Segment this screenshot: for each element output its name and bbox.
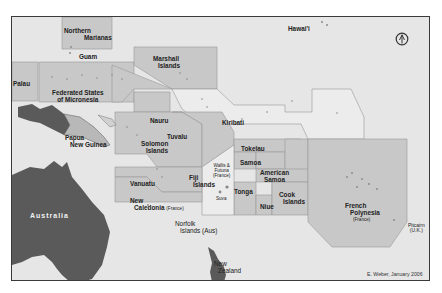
label-suva: Suva xyxy=(216,196,226,201)
label-marshall-islands: MarshallIslands xyxy=(153,55,180,69)
label-australia: Australia xyxy=(30,212,69,219)
label-solomon-islands: SolomonIslands xyxy=(141,140,168,154)
label-papua-new-guinea: PapuaNew Guinea xyxy=(65,134,107,148)
label-tonga: Tonga xyxy=(234,188,253,195)
label-vanuatu: Vanuatu xyxy=(130,180,155,187)
eez-nauru xyxy=(134,92,170,112)
label-fiji: FijiIslands xyxy=(189,174,215,188)
label-wallis-futuna: Wallis &Futuna(France) xyxy=(213,163,230,178)
label-new-caledonia: NewCaledonia (France) xyxy=(130,197,184,211)
label-cook-islands: CookIslands xyxy=(279,191,305,205)
eez-tonga xyxy=(234,182,256,215)
label-kiribati: Kiribati xyxy=(222,119,244,126)
label-nauru: Nauru xyxy=(150,117,168,124)
label-new-zealand: NewZealand xyxy=(214,260,241,274)
land-new-guinea-west xyxy=(18,104,70,135)
label-fsm: Federated Statesof Micronesia xyxy=(52,89,104,103)
label-palau: Palau xyxy=(13,80,30,87)
land-new-britain xyxy=(98,115,116,127)
map-canvas xyxy=(12,17,430,281)
north-arrow-icon xyxy=(395,32,409,46)
eez-french-polynesia xyxy=(308,139,407,247)
label-french-polynesia: FrenchPolynesia(France) xyxy=(345,202,380,223)
label-samoa: Samoa xyxy=(240,159,261,166)
label-pitcairn: Pitcairn(U.K.) xyxy=(408,223,425,233)
label-tuvalu: Tuvalu xyxy=(167,133,187,140)
label-guam: Guam xyxy=(79,53,97,60)
label-hawaii: Hawai'i xyxy=(288,25,310,32)
label-tokelau: Tokelau xyxy=(241,145,265,152)
label-american-samoa: AmericanSamoa xyxy=(260,169,289,183)
map-frame: NorthernMarianas Guam Hawai'i Palau Mars… xyxy=(11,16,430,281)
land-australia xyxy=(12,161,110,281)
label-norfolk: NorfolkIslands (Aus) xyxy=(175,220,217,234)
label-northern-marianas: NorthernMarianas xyxy=(64,27,112,41)
label-niue: Niue xyxy=(260,203,274,210)
map-credit: E. Weber, January 2006 xyxy=(367,271,423,277)
